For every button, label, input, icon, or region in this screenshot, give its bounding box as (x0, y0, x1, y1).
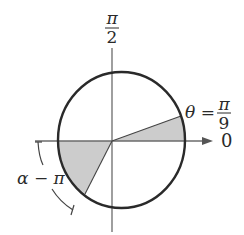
alpha-bracket-lower (52, 189, 73, 210)
theta-numerator: π (217, 94, 230, 114)
theta-denominator: 9 (219, 113, 230, 133)
alpha-minus-pi-label: α − π (17, 168, 66, 188)
lower-shaded-sector (58, 141, 112, 194)
top-label-numerator: π (105, 8, 118, 28)
zero-axis-label: 0 (221, 130, 232, 151)
polar-diagram: π 2 0 θ = π 9 α − π (0, 0, 244, 235)
top-label-denominator: 2 (107, 27, 118, 47)
arrow-head-icon (202, 137, 213, 145)
alpha-bracket-upper (38, 142, 43, 165)
theta-label: θ = (185, 102, 215, 122)
alpha-bracket-end-tick (71, 205, 74, 215)
